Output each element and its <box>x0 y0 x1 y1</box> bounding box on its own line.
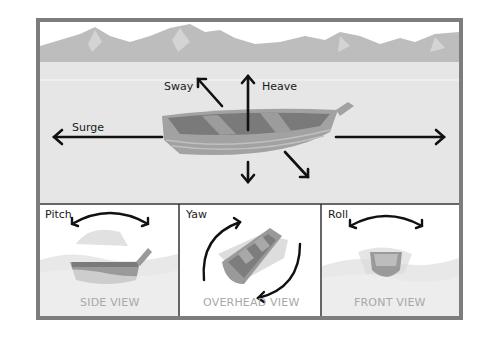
yaw-title: Yaw <box>186 208 207 221</box>
sway-label: Sway <box>164 80 193 93</box>
yaw-boat <box>218 228 288 284</box>
surge-label: Surge <box>72 121 104 134</box>
roll-title: Roll <box>328 208 348 221</box>
roll-arrow <box>350 216 422 226</box>
diagram-frame: Sway Heave Surge Pitch Yaw Roll SIDE VIE… <box>36 18 463 320</box>
side-view-label: SIDE VIEW <box>80 296 140 309</box>
front-view-label: FRONT VIEW <box>354 296 426 309</box>
pitch-arrow <box>72 213 148 224</box>
overhead-view-label: OVERHEAD VIEW <box>203 296 300 309</box>
heave-label: Heave <box>262 80 297 93</box>
diagram-canvas <box>40 22 459 316</box>
pitch-title: Pitch <box>45 208 72 221</box>
